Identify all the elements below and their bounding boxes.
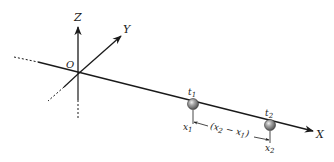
- particle-2-ball: [265, 120, 276, 131]
- particle-2: t2 x2: [265, 108, 276, 155]
- x-axis: X: [14, 57, 325, 141]
- particle-2-position-label: x2: [265, 143, 275, 155]
- x-axis-label: X: [315, 128, 325, 141]
- x-axis-dashed-segment: [14, 57, 38, 62]
- y-axis-line: [78, 36, 121, 74]
- particle-1-time-label: t1: [188, 87, 196, 99]
- displacement-label: (x2 − x1): [209, 121, 250, 141]
- z-axis-label: Z: [73, 11, 82, 24]
- kinematics-diagram: X Z Y O t1 x1 t2 x2: [0, 0, 334, 162]
- y-axis-dashed-segment: [48, 87, 64, 101]
- particle-2-time-label: t2: [265, 108, 274, 120]
- particle-1-position-label: x1: [183, 122, 193, 134]
- y-axis: Y: [48, 23, 132, 101]
- displacement-annotation: (x2 − x1): [194, 121, 269, 141]
- origin-label: O: [66, 59, 74, 70]
- displacement-arrow-left: [194, 122, 208, 126]
- y-axis-label: Y: [123, 23, 132, 36]
- particle-1: t1 x1: [183, 87, 199, 134]
- z-axis: Z: [73, 11, 82, 118]
- displacement-arrow-right: [254, 137, 269, 140]
- y-axis-lower-segment: [64, 74, 78, 87]
- particle-1-ball: [188, 99, 199, 110]
